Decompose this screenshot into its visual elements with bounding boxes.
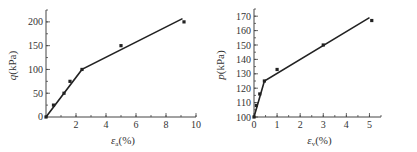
x-axis-label: εv(%) [307,134,332,148]
y-tick-label: 100 [236,112,251,123]
data-point [52,104,55,107]
data-point [62,92,65,95]
chart-canvas: 246810050100150200εa(%)q(kPa)01234510011… [0,0,417,152]
y-tick-label: 170 [236,11,251,22]
data-point [263,79,266,82]
x-tick-label: 3 [321,119,326,130]
y-tick-label: 150 [28,40,43,51]
y-tick-label: 130 [236,68,251,79]
x-axis-label: εa(%) [111,134,135,148]
chart-1: 246810050100150200εa(%)q(kPa) [6,10,201,148]
fit-line [46,19,183,117]
data-point [68,80,71,83]
x-tick-label: 4 [104,119,109,130]
x-tick-label: 6 [134,119,139,130]
y-tick-label: 150 [236,40,251,51]
y-tick-label: 140 [236,54,251,65]
x-tick-label: 1 [275,119,280,130]
fit-line [254,18,370,117]
data-point [182,20,185,23]
y-tick-label: 50 [33,88,43,99]
y-tick-label: 120 [236,83,251,94]
data-point [44,115,47,118]
x-tick-label: 8 [164,119,169,130]
x-tick-label: 5 [367,119,372,130]
y-tick-label: 110 [236,97,251,108]
data-point [252,115,255,118]
data-point [119,44,122,47]
x-tick-label: 4 [344,119,349,130]
y-tick-label: 0 [38,111,43,122]
data-point [322,43,325,46]
x-tick-label: 0 [252,119,257,130]
y-tick-label: 160 [236,25,251,36]
data-point [370,19,373,22]
data-point [255,104,258,107]
x-tick-label: 10 [191,119,201,130]
y-tick-label: 100 [28,64,43,75]
x-tick-label: 2 [298,119,303,130]
data-point [275,68,278,71]
x-tick-label: 2 [74,119,79,130]
chart-2: 012345100110120130140150160170εv(%)p(kPa… [214,9,381,148]
y-axis-label: p(kPa) [214,50,227,81]
y-tick-label: 200 [28,16,43,27]
data-point [258,92,261,95]
data-point [80,68,83,71]
y-axis-label: q(kPa) [6,51,19,81]
